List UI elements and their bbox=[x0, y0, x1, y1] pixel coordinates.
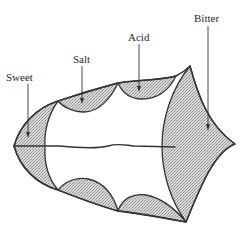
label-salt: Salt bbox=[73, 54, 90, 65]
label-sweet: Sweet bbox=[6, 72, 33, 83]
tongue-illustration bbox=[0, 0, 250, 238]
bitter-zone bbox=[162, 66, 235, 222]
tongue-taste-diagram: Sweet Salt Acid Bitter bbox=[0, 0, 250, 238]
salt-arrow bbox=[80, 66, 84, 104]
label-bitter: Bitter bbox=[194, 13, 219, 24]
label-acid: Acid bbox=[128, 32, 149, 43]
salt-zone-lower bbox=[58, 178, 118, 211]
